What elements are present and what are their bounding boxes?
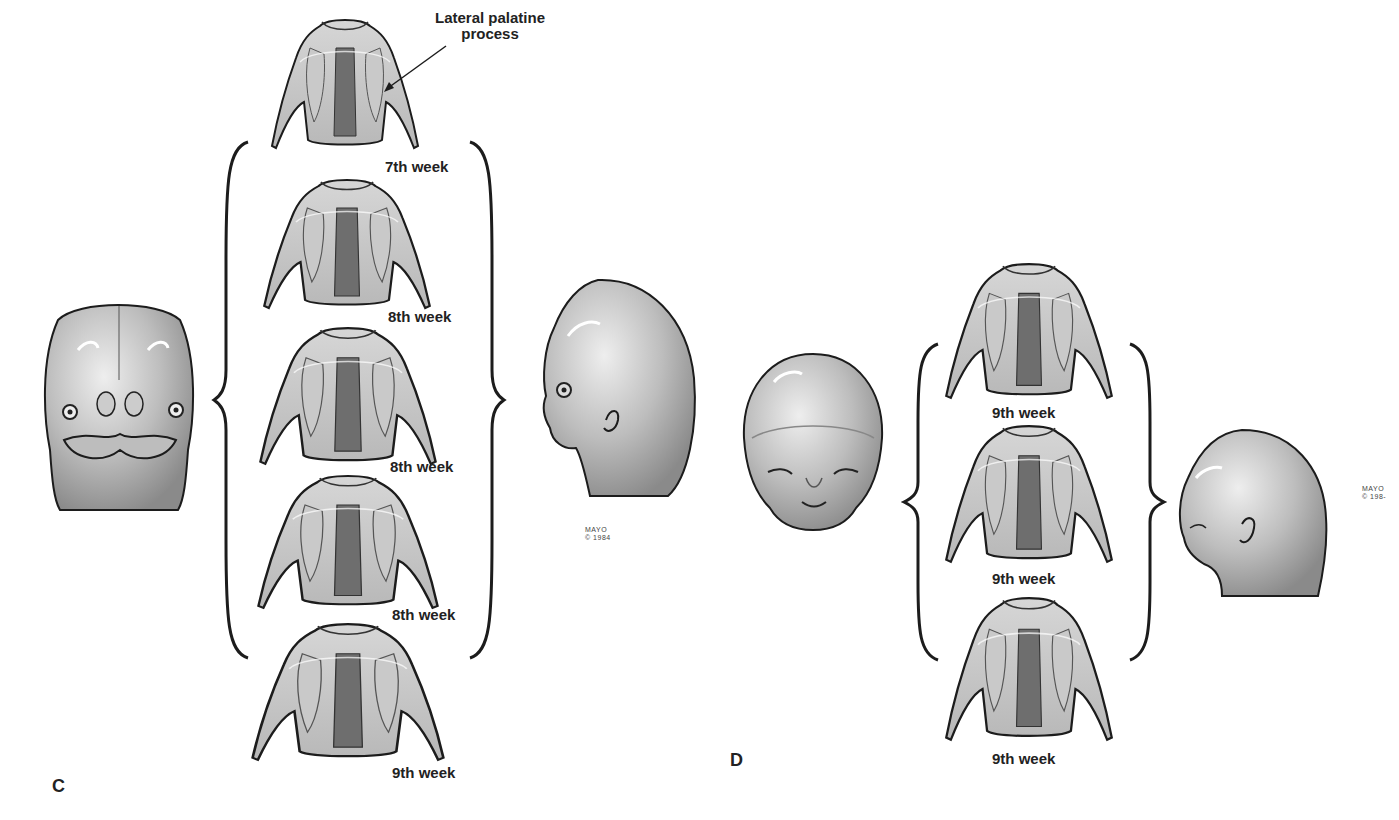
- callout-line-1: Lateral palatine: [425, 10, 555, 26]
- palate-stage-2: [262, 178, 432, 310]
- palate-stage-4: [256, 474, 440, 610]
- stage-label: 9th week: [392, 764, 455, 781]
- palate-stage-1: [944, 262, 1114, 400]
- frontal-face-fetus: [738, 352, 888, 532]
- mayo-copyright-mark: MAYO © 1984: [585, 526, 611, 542]
- callout-arrow: [380, 44, 450, 94]
- lateral-head-embryo: [528, 278, 698, 498]
- stage-label: 8th week: [392, 606, 455, 623]
- palate-stage-3: [944, 596, 1114, 742]
- palate-stage-3: [258, 326, 438, 466]
- palate-stage-2: [944, 424, 1114, 564]
- stage-label: 8th week: [390, 458, 453, 475]
- stage-label: 9th week: [992, 570, 1055, 587]
- panel-letter-c: C: [52, 776, 65, 797]
- palate-stage-5: [250, 622, 446, 762]
- mark-line-1: MAYO: [1362, 485, 1386, 493]
- left-brace: [902, 342, 942, 662]
- mark-line-2: © 1984: [585, 534, 611, 542]
- mark-line-1: MAYO: [585, 526, 611, 534]
- stage-label: 9th week: [992, 750, 1055, 767]
- mayo-copyright-mark: MAYO © 198-: [1362, 485, 1386, 501]
- callout-line-2: process: [425, 26, 555, 42]
- right-brace: [1126, 342, 1166, 662]
- stage-label: 8th week: [388, 308, 451, 325]
- lateral-head-fetus: [1172, 428, 1332, 598]
- stage-label: 9th week: [992, 404, 1055, 421]
- right-brace: [466, 140, 506, 660]
- left-brace: [212, 140, 252, 660]
- stage-label: 7th week: [385, 158, 448, 175]
- frontal-face-embryo: [38, 300, 200, 510]
- mark-line-2: © 198-: [1362, 493, 1386, 501]
- panel-letter-d: D: [730, 750, 743, 771]
- lateral-palatine-process-label: Lateral palatine process: [425, 10, 555, 42]
